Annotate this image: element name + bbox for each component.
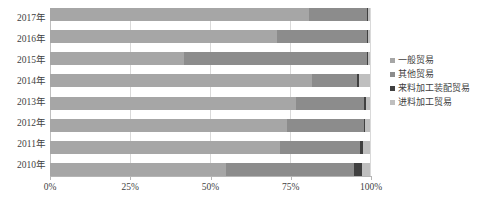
bar-segment[interactable] — [312, 74, 357, 87]
x-axis-tick — [211, 176, 212, 180]
bar-row[interactable] — [50, 141, 370, 154]
x-axis-tick — [371, 176, 372, 180]
bar-row[interactable] — [50, 97, 370, 110]
bar-row[interactable] — [50, 52, 370, 65]
x-axis-tick-label: 75% — [282, 182, 299, 192]
bar-segment[interactable] — [287, 119, 364, 132]
bar-row[interactable] — [50, 8, 370, 21]
legend-swatch-icon — [390, 58, 395, 63]
bar-segment[interactable] — [363, 141, 370, 154]
bar-segment[interactable] — [368, 52, 370, 65]
bar-segment[interactable] — [50, 163, 226, 176]
legend-label: 来料加工装配贸易 — [398, 82, 470, 95]
y-axis-label: 2014年 — [0, 71, 46, 92]
plot-wrapper: 2017年2016年2015年2014年2013年2012年2011年2010年… — [0, 0, 385, 208]
bar-segment[interactable] — [362, 163, 370, 176]
bar-row[interactable] — [50, 30, 370, 43]
y-axis-label: 2015年 — [0, 50, 46, 71]
bar-segment[interactable] — [50, 8, 309, 21]
x-axis-tick-label: 25% — [122, 182, 139, 192]
bar-segment[interactable] — [366, 97, 370, 110]
bar-row[interactable] — [50, 119, 370, 132]
bar-series-group — [50, 8, 370, 176]
x-axis-tick-label: 50% — [202, 182, 219, 192]
bar-segment[interactable] — [50, 97, 296, 110]
bar-segment[interactable] — [296, 97, 363, 110]
bar-segment[interactable] — [50, 30, 277, 43]
y-axis-label: 2013年 — [0, 92, 46, 113]
stacked-bar-chart: 2017年2016年2015年2014年2013年2012年2011年2010年… — [0, 0, 490, 208]
bar-segment[interactable] — [365, 119, 370, 132]
y-axis-label: 2010年 — [0, 155, 46, 176]
legend-swatch-icon — [390, 100, 395, 105]
legend-item[interactable]: 一般贸易 — [390, 54, 490, 67]
x-axis-tick — [130, 176, 131, 180]
x-axis-ticks — [50, 176, 371, 180]
bar-segment[interactable] — [50, 52, 184, 65]
legend-swatch-icon — [390, 72, 395, 77]
bar-segment[interactable] — [309, 8, 367, 21]
y-axis-label: 2011年 — [0, 134, 46, 155]
x-axis-tick — [50, 176, 51, 180]
bar-segment[interactable] — [50, 141, 280, 154]
legend-item[interactable]: 来料加工装配贸易 — [390, 82, 490, 95]
bar-segment[interactable] — [184, 52, 366, 65]
legend-label: 其他贸易 — [398, 68, 434, 81]
x-axis-tick-label: 0% — [44, 182, 57, 192]
legend-swatch-icon — [390, 86, 395, 91]
bar-segment[interactable] — [50, 119, 287, 132]
bar-segment[interactable] — [368, 8, 370, 21]
bar-row[interactable] — [50, 74, 370, 87]
bar-segment[interactable] — [50, 74, 312, 87]
y-axis-label: 2016年 — [0, 29, 46, 50]
legend-label: 一般贸易 — [398, 54, 434, 67]
y-axis-category-labels: 2017年2016年2015年2014年2013年2012年2011年2010年 — [0, 8, 46, 176]
x-axis-tick — [291, 176, 292, 180]
bar-segment[interactable] — [226, 163, 354, 176]
x-axis-tick-labels: 0%25%50%75%100% — [50, 182, 371, 198]
y-axis-label: 2017年 — [0, 8, 46, 29]
bar-segment[interactable] — [280, 141, 360, 154]
legend-label: 进料加工贸易 — [398, 96, 452, 109]
bar-row[interactable] — [50, 163, 370, 176]
bar-segment[interactable] — [354, 163, 362, 176]
y-axis-label: 2012年 — [0, 113, 46, 134]
gridline — [370, 8, 371, 176]
bar-segment[interactable] — [368, 30, 370, 43]
x-axis-tick-label: 100% — [360, 182, 382, 192]
legend-item[interactable]: 进料加工贸易 — [390, 96, 490, 109]
plot-area — [50, 8, 370, 176]
legend-item[interactable]: 其他贸易 — [390, 68, 490, 81]
bar-segment[interactable] — [359, 74, 370, 87]
bar-segment[interactable] — [277, 30, 367, 43]
chart-legend: 一般贸易其他贸易来料加工装配贸易进料加工贸易 — [390, 54, 490, 110]
